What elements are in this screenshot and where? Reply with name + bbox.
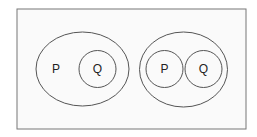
label-q: Q — [93, 62, 102, 76]
label-q-right: Q — [199, 62, 208, 76]
venn-diagram: P Q P Q — [0, 0, 257, 137]
label-p-right: P — [160, 62, 168, 76]
label-p: P — [52, 62, 60, 76]
